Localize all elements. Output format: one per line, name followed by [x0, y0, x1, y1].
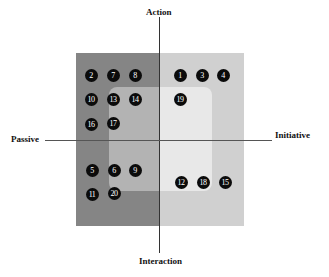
numbered-point-8: 8: [129, 69, 142, 82]
numbered-point-13: 13: [107, 93, 120, 106]
numbered-point-7: 7: [107, 69, 120, 82]
axis-label-action: Action: [146, 7, 172, 17]
inner-rounded-region: [109, 87, 212, 191]
horizontal-axis-line: [45, 140, 272, 141]
numbered-point-14: 14: [129, 93, 142, 106]
numbered-point-5: 5: [86, 164, 99, 177]
numbered-point-12: 12: [175, 176, 188, 189]
numbered-point-1: 1: [174, 69, 187, 82]
axis-label-interaction: Interaction: [139, 256, 182, 266]
numbered-point-19: 19: [174, 93, 187, 106]
numbered-point-3: 3: [196, 69, 209, 82]
axis-label-passive: Passive: [11, 134, 39, 144]
numbered-point-16: 16: [85, 118, 98, 131]
vertical-axis-line: [159, 17, 160, 253]
numbered-point-17: 17: [107, 117, 120, 130]
quadrant-diagram: Action Interaction Passive Initiative 27…: [0, 0, 329, 277]
numbered-point-2: 2: [85, 69, 98, 82]
numbered-point-11: 11: [86, 188, 99, 201]
numbered-point-6: 6: [108, 164, 121, 177]
numbered-point-20: 20: [108, 187, 121, 200]
axis-label-initiative: Initiative: [275, 130, 310, 140]
numbered-point-18: 18: [197, 176, 210, 189]
numbered-point-9: 9: [129, 164, 142, 177]
numbered-point-15: 15: [219, 176, 232, 189]
numbered-point-10: 10: [85, 93, 98, 106]
numbered-point-4: 4: [217, 69, 230, 82]
